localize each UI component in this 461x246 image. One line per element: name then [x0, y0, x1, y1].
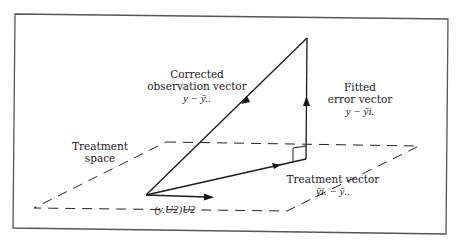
- corrected-observation-vector: [146, 38, 307, 195]
- diagram-canvas: [0, 0, 461, 246]
- label-math: ȳi. − ȳ..: [278, 185, 388, 197]
- label-line: Corrected: [138, 68, 256, 80]
- fitted-error-label: Fitted error vector y − ȳi.: [320, 81, 400, 117]
- label-math: (y.U2)U2: [154, 203, 195, 215]
- treatment-space-label: Treatment space: [64, 140, 136, 164]
- vector-geometry-diagram: Corrected observation vector y − ȳ.. Fit…: [0, 0, 461, 246]
- arrowhead-icon: [204, 194, 214, 201]
- label-line: Fitted: [320, 81, 400, 93]
- arrowhead-icon: [303, 96, 310, 106]
- label-line: observation vector: [138, 80, 256, 92]
- treatment-vector-label: Treatment vector ȳi. − ȳ..: [278, 173, 388, 197]
- label-line: error vector: [320, 93, 400, 105]
- corrected-observation-label: Corrected observation vector y − ȳ..: [138, 68, 256, 104]
- label-line: Treatment vector: [278, 173, 388, 185]
- label-line: space: [64, 152, 136, 164]
- arrowhead-icon: [272, 163, 281, 169]
- right-angle-marker: [293, 146, 306, 161]
- u2-projection-label: (y.U2)U2: [145, 203, 205, 215]
- label-math: y − ȳ..: [138, 92, 256, 104]
- u2-projection-vector: [146, 195, 206, 197]
- label-math: y − ȳi.: [320, 105, 400, 117]
- figure-frame: [13, 14, 448, 234]
- label-line: Treatment: [64, 140, 136, 152]
